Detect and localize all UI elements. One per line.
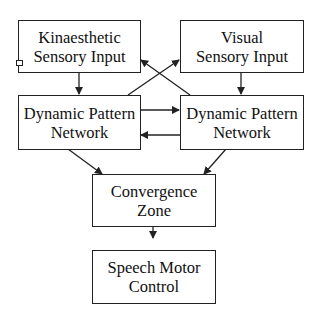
node-label-line: Network: [51, 123, 109, 142]
node-label-line: Dynamic Pattern: [24, 104, 135, 123]
node-label-line: Network: [213, 123, 271, 142]
node-label-line: Sensory Input: [196, 47, 288, 66]
node-label-line: Speech Motor: [107, 258, 200, 277]
node-kinaesthetic-sensory-input: Kinaesthetic Sensory Input: [18, 20, 141, 73]
node-dynamic-pattern-network-right: Dynamic Pattern Network: [180, 95, 304, 150]
edge-dpn-left-to-convergence: [68, 149, 102, 174]
node-label-line: Control: [129, 277, 179, 296]
node-label-line: Dynamic Pattern: [186, 104, 297, 123]
node-label-line: Zone: [137, 201, 171, 220]
node-speech-motor-control: Speech Motor Control: [92, 250, 216, 304]
node-label-line: Kinaesthetic: [38, 28, 120, 47]
edge-dpn-right-to-convergence: [204, 149, 226, 174]
node-label-line: Visual: [221, 28, 263, 47]
node-dynamic-pattern-network-left: Dynamic Pattern Network: [18, 95, 141, 150]
node-convergence-zone: Convergence Zone: [92, 174, 216, 227]
node-visual-sensory-input: Visual Sensory Input: [180, 20, 304, 73]
node-label-line: Sensory Input: [33, 47, 125, 66]
node-label-line: Convergence: [111, 182, 198, 201]
connector-stub: [16, 60, 23, 66]
